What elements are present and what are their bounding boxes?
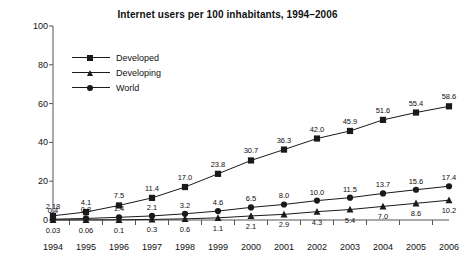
legend-item-developed[interactable]: Developed [72, 50, 202, 65]
square-marker-icon [87, 55, 93, 61]
legend-line-swatch [72, 68, 110, 78]
data-point-label: 8.0 [279, 193, 289, 201]
data-point-label: 7.0 [378, 214, 388, 222]
x-axis-tick-label: 2006 [429, 242, 464, 252]
legend-label: Developed [110, 53, 159, 63]
data-point-label: 15.6 [409, 178, 424, 186]
data-point-label: 17.0 [178, 174, 193, 182]
data-point-label: 0.6 [180, 226, 190, 234]
data-point-label: 0.3 [147, 227, 157, 235]
chart-title: Internet users per 100 inhabitants, 1994… [0, 9, 455, 20]
data-point-label: 10.2 [442, 207, 457, 215]
data-point-label: 10.0 [310, 189, 325, 197]
data-point-label: 36.3 [277, 137, 292, 145]
y-axis-tick-label: 80 [24, 60, 48, 70]
y-axis-tick-label: 100 [24, 21, 48, 31]
data-point-label: 1.4 [114, 206, 124, 214]
data-point-label: 23.8 [211, 161, 226, 169]
legend-item-developing[interactable]: Developing [72, 65, 202, 80]
data-point-label: 0.8 [81, 207, 91, 215]
data-point-label: 7.5 [114, 193, 124, 201]
data-point-label: 2.1 [147, 204, 157, 212]
data-point-label: 30.7 [244, 148, 259, 156]
data-point-label: 13.7 [376, 182, 391, 190]
legend-label: World [110, 83, 139, 93]
triangle-marker-icon [87, 70, 93, 76]
data-point-label: 5.4 [345, 217, 355, 225]
y-axis-tick-label: 60 [24, 99, 48, 109]
data-point-label: 2.9 [279, 222, 289, 230]
legend-item-world[interactable]: World [72, 80, 202, 95]
legend-line-swatch [72, 83, 110, 93]
data-point-label: 45.9 [343, 118, 358, 126]
data-point-label: 17.4 [442, 174, 457, 182]
circle-marker-icon [87, 85, 93, 91]
x-axis-tick-labels: 1994199519961997199819992000200120022003… [53, 242, 449, 256]
data-point-label: 55.4 [409, 100, 424, 108]
legend-line-swatch [72, 53, 110, 63]
data-point-label: 11.5 [343, 186, 357, 194]
data-point-label: 0.06 [79, 227, 94, 235]
data-point-label: 42.0 [310, 126, 325, 134]
legend-label: Developing [110, 68, 161, 78]
data-point-label: 1.1 [213, 225, 223, 233]
data-point-label: 0.1 [114, 227, 124, 235]
data-point-label: 0.4 [48, 207, 58, 215]
data-point-label: 11.4 [145, 185, 159, 193]
chart-legend: DevelopedDevelopingWorld [72, 50, 202, 95]
y-axis-tick-labels: 020406080100 [20, 26, 48, 220]
data-point-label: 4.6 [213, 199, 223, 207]
data-point-label: 58.6 [442, 94, 457, 102]
data-point-label: 6.5 [246, 196, 256, 204]
data-point-label: 3.2 [180, 202, 190, 210]
data-point-label: 4.3 [312, 219, 322, 227]
data-point-label: 0.03 [46, 227, 61, 235]
data-point-label: 8.6 [411, 211, 421, 219]
data-point-label: 2.1 [246, 223, 256, 231]
y-axis-tick-label: 20 [24, 176, 48, 186]
y-axis-tick-label: 40 [24, 137, 48, 147]
y-axis-tick-label: 0 [24, 215, 48, 225]
data-point-label: 51.6 [376, 107, 391, 115]
